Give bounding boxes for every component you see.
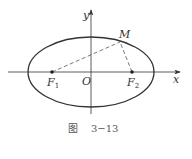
origin-label: O — [82, 75, 91, 88]
segment-f2-m — [120, 42, 132, 72]
focus-f2-point — [130, 70, 134, 74]
figure-caption-prefix: 图 — [68, 123, 78, 134]
ellipse-diagram: y x O M F1 F2 图 3−13 — [0, 0, 192, 159]
point-m-label: M — [118, 28, 131, 41]
focus-f1-label: F1 — [46, 76, 59, 90]
focus-f2-label: F2 — [126, 76, 139, 90]
segment-f1-m — [52, 42, 120, 72]
y-axis-label: y — [82, 9, 90, 22]
x-axis-label: x — [173, 73, 180, 86]
focus-f1-point — [50, 70, 54, 74]
figure-caption-number: 3−13 — [91, 123, 118, 134]
